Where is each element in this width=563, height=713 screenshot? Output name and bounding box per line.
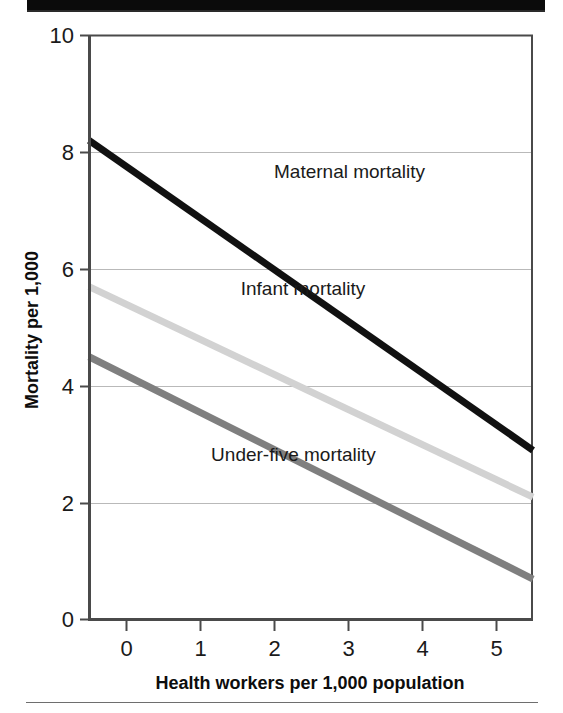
y-tick-label-10: 10 [50,23,74,48]
x-axis-tick-labels: 0 1 2 3 4 5 [120,636,502,661]
y-axis-title: Mortality per 1,000 [22,251,42,409]
x-tick-label-5: 5 [490,636,502,661]
series-label-under-five-mortality: Under-five mortality [211,444,376,465]
x-tick-label-1: 1 [194,636,206,661]
y-tick-label-6: 6 [62,257,74,282]
figure-container: 10 8 6 4 2 0 0 1 2 3 4 5 Health workers … [0,0,563,713]
series-label-infant-mortality: Infant mortality [241,278,366,299]
x-tick-label-3: 3 [342,636,354,661]
y-tick-label-0: 0 [62,607,74,632]
y-tick-label-4: 4 [62,374,74,399]
x-axis-ticks [127,620,497,631]
series-label-maternal-mortality: Maternal mortality [274,161,425,182]
y-axis-ticks [80,36,89,620]
plot-background [89,35,533,620]
x-axis-title: Health workers per 1,000 population [155,673,464,693]
x-tick-label-0: 0 [120,636,132,661]
y-tick-label-2: 2 [62,491,74,516]
line-chart: 10 8 6 4 2 0 0 1 2 3 4 5 Health workers … [0,0,563,713]
footer-rule [26,702,538,703]
y-axis-tick-labels: 10 8 6 4 2 0 [50,23,74,632]
x-tick-label-4: 4 [416,636,428,661]
y-tick-label-8: 8 [62,140,74,165]
x-tick-label-2: 2 [268,636,280,661]
